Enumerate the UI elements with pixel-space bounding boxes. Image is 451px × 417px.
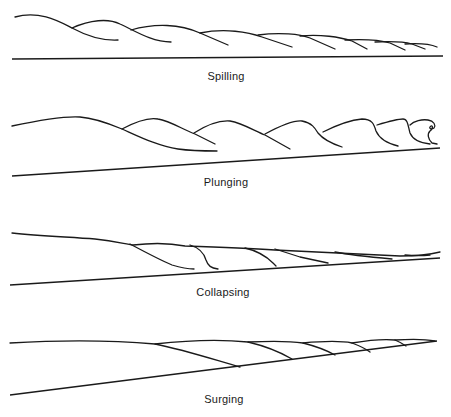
- collapsing-panel: [10, 233, 440, 285]
- plunging-wave-1: [12, 117, 217, 151]
- collapsing-wave-3: [245, 248, 276, 266]
- plunging-wave-2: [122, 119, 215, 144]
- label-collapsing: Collapsing: [163, 286, 283, 298]
- spilling-wave-3: [131, 25, 228, 45]
- surging-panel: [10, 339, 437, 395]
- spilling-wave-2: [72, 21, 171, 42]
- plunging-wave-3: [194, 121, 290, 149]
- label-spilling: Spilling: [166, 70, 286, 82]
- label-surging: Surging: [164, 393, 284, 405]
- spilling-wave-9: [405, 44, 437, 47]
- spilling-panel: [12, 15, 443, 59]
- label-plunging: Plunging: [166, 176, 286, 188]
- surging-surface: [10, 339, 435, 344]
- collapsing-surface: [12, 233, 440, 256]
- surging-swash-2: [248, 342, 292, 359]
- breaker-types-diagram: [0, 0, 451, 417]
- spilling-seabed-line: [12, 56, 443, 59]
- plunging-wave-5: [323, 119, 398, 146]
- plunging-panel: [12, 117, 440, 176]
- surging-swash-1: [155, 344, 240, 367]
- surging-seabed-line: [10, 341, 437, 395]
- collapsing-wave-6: [405, 255, 430, 256]
- surging-swash-3: [303, 343, 335, 355]
- plunging-seabed-line: [12, 148, 440, 176]
- collapsing-wave-1: [130, 244, 194, 269]
- collapsing-seabed-line: [10, 258, 440, 285]
- plunging-curl: [410, 120, 437, 144]
- collapsing-wave-2: [190, 245, 218, 269]
- spilling-wave-1: [15, 15, 118, 40]
- plunging-wave-4: [265, 121, 342, 147]
